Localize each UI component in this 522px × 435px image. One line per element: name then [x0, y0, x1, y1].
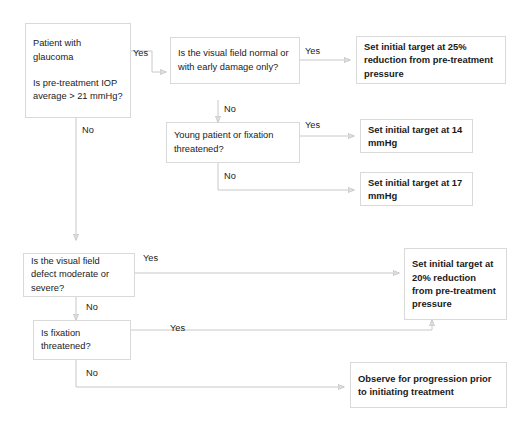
edge-label-young-yes: Yes — [305, 120, 320, 131]
node-target-25-percent[interactable]: Set initial target at 25% reduction from… — [356, 36, 506, 84]
edge-label-defect-yes: Yes — [143, 253, 158, 264]
node-observe-for-progression[interactable]: Observe for progression prior to initiat… — [350, 362, 507, 408]
edge-label-defect-no: No — [86, 302, 98, 313]
edge-label-patient-no: No — [82, 125, 94, 136]
node-patient-with-glaucoma[interactable]: Patient with glaucoma Is pre-treatment I… — [25, 23, 131, 118]
edge-label-young-no: No — [224, 171, 236, 182]
edge-young-no — [218, 163, 354, 190]
edge-label-fixation-yes: Yes — [170, 323, 185, 334]
edge-label-patient-yes: Yes — [133, 48, 148, 59]
edge-label-vfnormal-yes: Yes — [305, 46, 320, 57]
edge-label-fixation-no: No — [86, 368, 98, 379]
node-visual-field-normal[interactable]: Is the visual field normal or with early… — [170, 37, 300, 84]
node-target-17-mmhg[interactable]: Set initial target at 17 mmHg — [360, 172, 473, 206]
node-target-14-mmhg[interactable]: Set initial target at 14 mmHg — [360, 119, 473, 153]
node-target-20-percent[interactable]: Set initial target at 20% reduction from… — [404, 248, 507, 320]
node-young-or-fixation[interactable]: Young patient or fixation threatened? — [166, 122, 300, 163]
node-vf-defect-moderate[interactable]: Is the visual field defect moderate or s… — [23, 253, 135, 297]
edge-label-vfnormal-no: No — [224, 104, 236, 115]
flowchart-canvas: Patient with glaucoma Is pre-treatment I… — [0, 0, 522, 435]
node-is-fixation-threatened[interactable]: Is fixation threatened? — [33, 320, 131, 360]
edge-fixation-no — [76, 360, 344, 387]
